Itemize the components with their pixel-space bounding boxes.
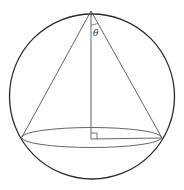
cone-base-ellipse: [22, 128, 162, 148]
theta-label: θ: [93, 28, 99, 38]
theta-angle-arc: [91, 23, 98, 25]
cone-in-sphere-diagram: θ: [0, 0, 184, 190]
right-angle-marker: [91, 133, 97, 139]
cone-left-slant-side: [22, 11, 91, 137]
cone-right-slant-side: [91, 11, 162, 138]
cone-base-radius-line: [91, 138, 162, 139]
sphere-outline: [10, 14, 175, 179]
